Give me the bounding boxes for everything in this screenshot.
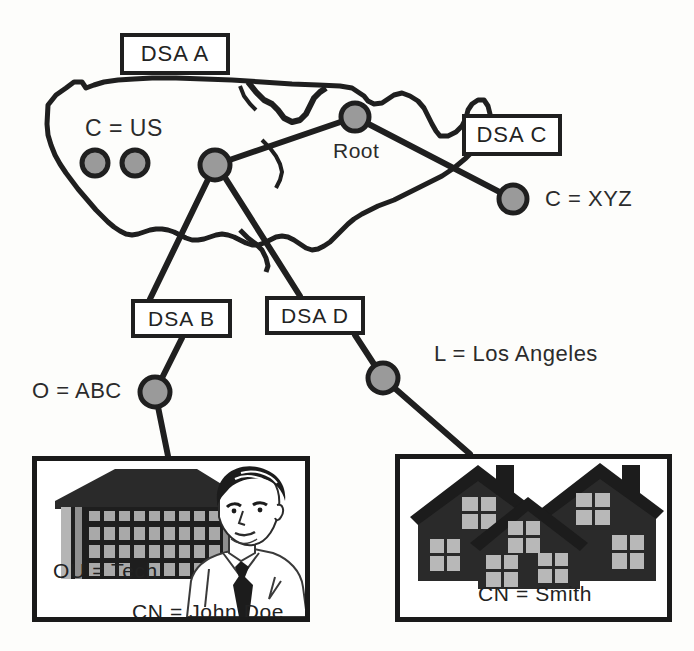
- label-common-name-smith: CN = Smith: [478, 582, 592, 606]
- label-common-name-john: CN = John Doe: [132, 600, 284, 622]
- businessman-portrait-icon: [179, 461, 309, 617]
- node-us-mid: [122, 150, 148, 176]
- dsa-d-label: DSA D: [281, 304, 349, 328]
- label-locality-la: L = Los Angeles: [434, 341, 598, 367]
- label-country-us: C = US: [85, 115, 163, 142]
- dsa-a-label: DSA A: [141, 41, 210, 67]
- label-root: Root: [333, 139, 379, 163]
- dsa-a-box[interactable]: DSA A: [120, 33, 230, 75]
- label-country-xyz: C = XYZ: [545, 186, 632, 212]
- dsa-c-box[interactable]: DSA C: [462, 114, 562, 156]
- dsa-b-label: DSA B: [148, 307, 215, 331]
- node-locality-la: [368, 363, 398, 393]
- tech-picture-box[interactable]: OU = Tech CN = John Doe: [32, 456, 310, 622]
- edge-useast-dsab: [150, 165, 215, 299]
- node-country-xyz: [499, 185, 527, 213]
- dsa-d-box[interactable]: DSA D: [265, 296, 365, 335]
- label-org-abc: O = ABC: [32, 378, 122, 404]
- dsa-c-label: DSA C: [476, 122, 547, 148]
- label-org-unit-tech: OU = Tech: [53, 559, 158, 583]
- node-root: [341, 103, 369, 131]
- diagram-canvas: DSA A DSA C DSA B DSA D C = US Root C = …: [0, 0, 694, 651]
- edge-useast-dsad: [219, 168, 300, 296]
- node-us-east: [200, 150, 230, 180]
- dsa-b-box[interactable]: DSA B: [131, 299, 232, 338]
- node-us-west: [82, 150, 108, 176]
- node-org-abc: [140, 377, 170, 407]
- smith-picture-box[interactable]: CN = Smith: [395, 454, 672, 622]
